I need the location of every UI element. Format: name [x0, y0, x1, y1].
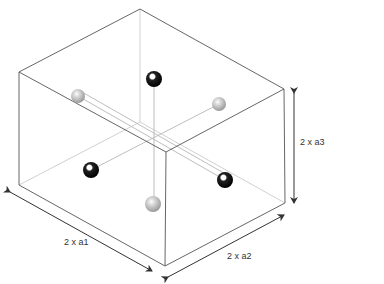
dimension-arrows [10, 93, 294, 277]
label-a2: 2 x a2 [227, 251, 252, 261]
a2-arrow [168, 215, 284, 277]
black-atom [83, 162, 99, 178]
hidden-edges [19, 9, 285, 203]
a1-arrow [10, 192, 152, 271]
unit-cell-diagram [0, 0, 384, 284]
bonds [78, 79, 229, 204]
atoms [71, 71, 233, 212]
box-edges [19, 9, 285, 266]
label-a3: 2 x a3 [300, 137, 325, 147]
label-a1: 2 x a1 [64, 237, 89, 247]
gray-atom [145, 196, 161, 212]
gray-atom [71, 89, 85, 103]
black-atom [217, 172, 233, 188]
gray-atom [212, 97, 226, 111]
black-atom [146, 71, 162, 87]
